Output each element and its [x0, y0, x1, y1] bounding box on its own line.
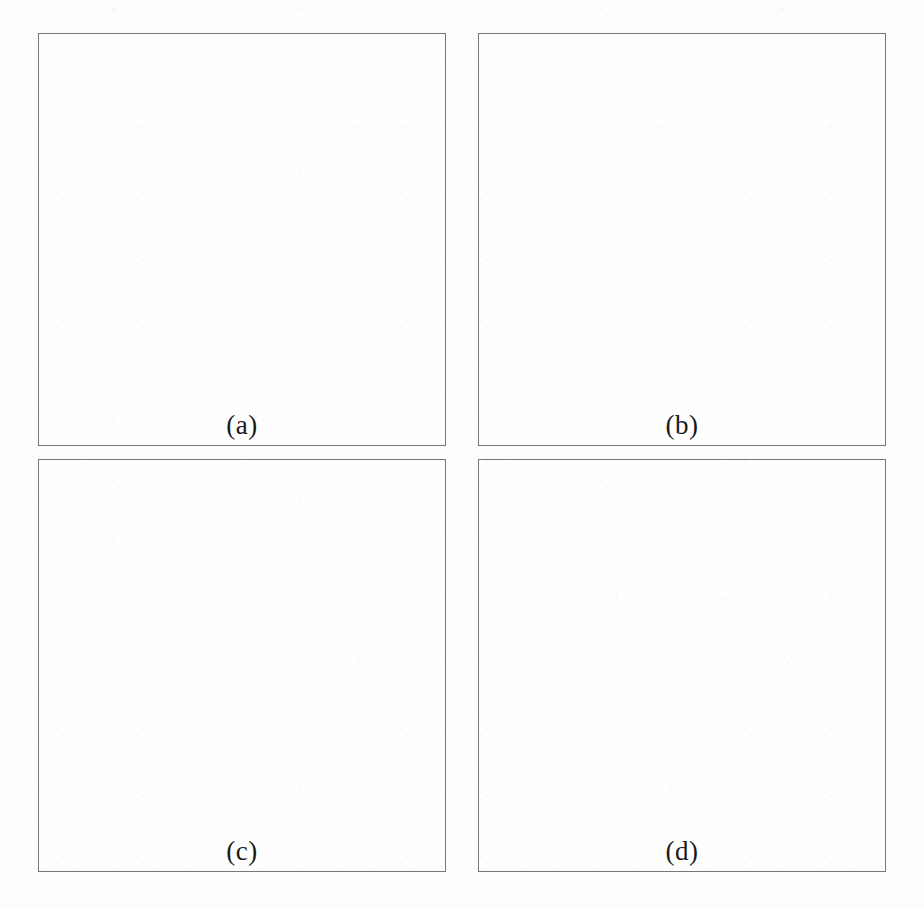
panel-c-label: (c)	[39, 836, 445, 867]
panel-d-label: (d)	[479, 836, 885, 867]
panel-a-canvas	[39, 34, 445, 445]
panel-b-label: (b)	[479, 410, 885, 441]
panel-d-canvas	[479, 460, 885, 871]
figure-root: (a) (b) (c) (d)	[0, 0, 924, 908]
panel-c-canvas	[39, 460, 445, 871]
panel-a-label: (a)	[39, 410, 445, 441]
panel-b-canvas	[479, 34, 885, 445]
panel-d: (d)	[478, 459, 886, 872]
panel-a: (a)	[38, 33, 446, 446]
panel-b: (b)	[478, 33, 886, 446]
panel-c: (c)	[38, 459, 446, 872]
